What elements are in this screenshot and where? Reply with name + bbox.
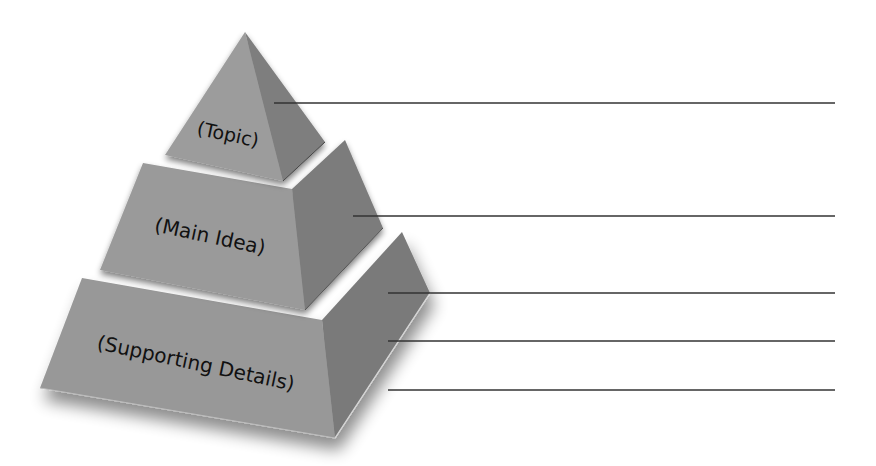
tier-topic xyxy=(165,32,325,181)
pyramid-svg: (Topic) (Main Idea) (Supporting Details) xyxy=(0,0,876,466)
pyramid-diagram: (Topic) (Main Idea) (Supporting Details) xyxy=(0,0,876,466)
